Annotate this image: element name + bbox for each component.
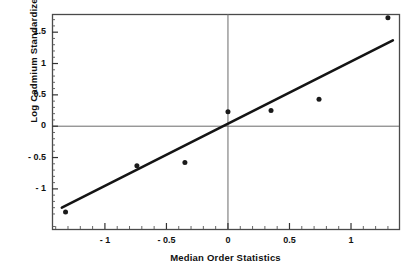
x-axis-label: Median Order Statistics — [52, 252, 399, 263]
data-point-marker — [269, 108, 274, 113]
x-tick-label: - 1 — [85, 235, 125, 245]
x-tick-label: 0.5 — [269, 235, 309, 245]
data-point-marker — [63, 210, 68, 215]
data-point-marker — [182, 160, 187, 165]
chart-figure: Normal Probability Plot Log Cadmium Stan… — [0, 0, 415, 274]
plot-canvas — [0, 0, 415, 274]
plot-frame — [53, 15, 400, 230]
data-point-marker — [225, 109, 230, 114]
x-tick-label: 1 — [331, 235, 371, 245]
data-point-marker — [385, 15, 390, 20]
x-tick-label: - 0.5 — [146, 235, 186, 245]
y-tick-label: 0 — [6, 120, 46, 130]
y-tick-label: - 1 — [6, 183, 46, 193]
y-tick-label: 0.5 — [6, 89, 46, 99]
y-tick-label: 1.5 — [6, 26, 46, 36]
y-tick-label: 1 — [6, 58, 46, 68]
fit-line — [62, 40, 393, 207]
data-point-marker — [317, 97, 322, 102]
x-tick-label: 0 — [208, 235, 248, 245]
y-tick-label: - 0.5 — [6, 152, 46, 162]
